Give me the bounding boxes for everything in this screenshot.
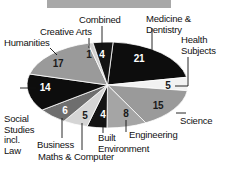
slice-value: 5 [82, 111, 87, 121]
slice-label: Science [180, 116, 212, 127]
slice-label: Humanities [4, 38, 50, 49]
slice-label: Health Subjects [181, 35, 216, 56]
slice-value: 6 [62, 106, 67, 116]
slice-label: Business [37, 140, 74, 151]
pie-slice-group [27, 42, 188, 128]
slice-value: 8 [123, 109, 128, 119]
slice-value: 4 [99, 50, 104, 60]
slice-label: Maths & Computer [38, 152, 114, 163]
slice-label: Social Studies incl. Law [4, 114, 34, 156]
slice-value: 4 [100, 110, 105, 120]
slice-label: Medicine & Dentistry [146, 14, 225, 35]
slice-value: 15 [153, 101, 164, 111]
slice-label: Creative Arts [40, 27, 92, 38]
pie-chart-figure: 215158456141714 Medicine & DentistryHeal… [0, 0, 225, 170]
slice-label: Combined [79, 15, 121, 26]
slice-value: 5 [165, 81, 170, 91]
slice-value: 14 [40, 83, 51, 93]
slice-value: 1 [86, 50, 91, 60]
slice-value: 17 [53, 59, 64, 69]
slice-value: 21 [134, 54, 145, 64]
